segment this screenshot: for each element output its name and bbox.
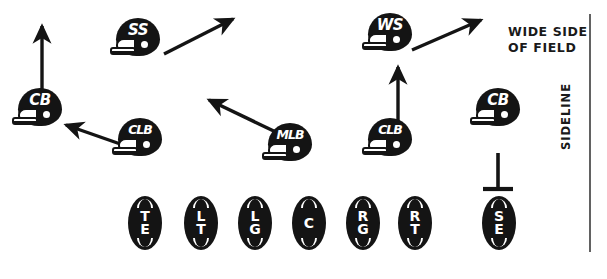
- defender-helmet-mlb[interactable]: MLB: [262, 123, 314, 169]
- helmet-earhole-icon: [293, 146, 300, 153]
- defender-label: CB: [476, 90, 520, 110]
- offense-label: C: [292, 196, 326, 250]
- offense-label-char: G: [357, 223, 369, 236]
- defender-helmet-clb-left[interactable]: CLB: [112, 118, 164, 164]
- offense-label-char: T: [410, 223, 420, 236]
- offense-token-rt[interactable]: R T: [398, 196, 432, 250]
- helmet-facemask-bar-icon: [114, 151, 138, 153]
- defender-label: WS: [368, 15, 412, 35]
- defender-label: MLB: [268, 125, 312, 145]
- offense-label-char: E: [140, 223, 150, 236]
- offense-label-char: T: [196, 223, 206, 236]
- helmet-facemask-bar-icon: [364, 46, 388, 48]
- offense-label-char: G: [249, 223, 261, 236]
- defender-helmet-ss[interactable]: SS: [110, 18, 162, 64]
- defender-label: CLB: [368, 120, 412, 140]
- offense-token-rg[interactable]: R G: [346, 196, 380, 250]
- helmet-earhole-icon: [143, 141, 150, 148]
- arrow-ss: [164, 19, 233, 54]
- arrow-ws: [412, 20, 481, 50]
- route-se-hook: [483, 153, 513, 190]
- helmet-facemask-bar-icon: [364, 151, 388, 153]
- defender-label: SS: [116, 20, 160, 40]
- offense-label-char: E: [494, 223, 504, 236]
- wide-side-of-field-label: WIDE SIDE OF FIELD: [508, 24, 588, 56]
- helmet-earhole-icon: [393, 36, 400, 43]
- offense-label: L G: [238, 196, 272, 250]
- defender-label: CLB: [118, 120, 162, 140]
- helmet-earhole-icon: [141, 41, 148, 48]
- helmet-facemask-bar-icon: [14, 121, 38, 123]
- offense-label: R T: [398, 196, 432, 250]
- offense-token-lt[interactable]: L T: [184, 196, 218, 250]
- offense-label: S E: [482, 196, 516, 250]
- offense-token-te[interactable]: T E: [128, 196, 162, 250]
- defender-label: CB: [18, 90, 62, 110]
- offense-label: L T: [184, 196, 218, 250]
- offense-token-c[interactable]: C: [292, 196, 326, 250]
- defender-helmet-ws[interactable]: WS: [362, 13, 414, 59]
- helmet-facemask-bar-icon: [112, 51, 136, 53]
- defender-helmet-cb-right[interactable]: CB: [470, 88, 522, 134]
- helmet-earhole-icon: [43, 111, 50, 118]
- defender-helmet-cb-left[interactable]: CB: [12, 88, 64, 134]
- football-play-diagram: CB SS CLB MLB WS CLB: [0, 0, 607, 279]
- offense-label: R G: [346, 196, 380, 250]
- helmet-facemask-bar-icon: [472, 121, 496, 123]
- offense-label-char: C: [304, 217, 314, 230]
- offense-token-se[interactable]: S E: [482, 196, 516, 250]
- sideline-label: SIDELINE: [558, 83, 574, 150]
- helmet-earhole-icon: [501, 111, 508, 118]
- offense-label: T E: [128, 196, 162, 250]
- helmet-earhole-icon: [393, 141, 400, 148]
- defender-helmet-clb-right[interactable]: CLB: [362, 118, 414, 164]
- helmet-facemask-bar-icon: [264, 156, 288, 158]
- offense-token-lg[interactable]: L G: [238, 196, 272, 250]
